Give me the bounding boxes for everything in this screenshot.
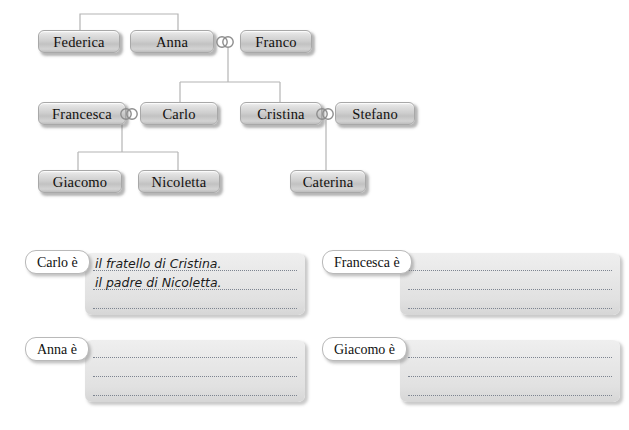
answer-line (408, 357, 612, 358)
handwritten-answers: il fratello di Cristina. il padre di Nic… (95, 254, 222, 311)
answer-text: il padre di Nicoletta. (95, 273, 222, 292)
person-label: Franco (255, 34, 296, 50)
person-label: Cristina (257, 106, 305, 122)
answer-line (408, 289, 612, 290)
answer-line (408, 376, 612, 377)
answer-line (93, 376, 297, 377)
answer-line (408, 270, 612, 271)
answer-panel[interactable] (400, 253, 620, 315)
person-label: Francesca (52, 106, 112, 122)
person-node-carlo[interactable]: Carlo (140, 102, 218, 125)
answer-line (93, 357, 297, 358)
answer-ruled-lines (93, 340, 297, 402)
person-node-francesca[interactable]: Francesca (38, 102, 126, 125)
family-tree: Federica Anna Franco Francesca Carlo Cri… (0, 0, 629, 230)
marriage-rings-icon (214, 35, 236, 49)
answer-panel[interactable] (85, 340, 305, 402)
person-node-anna[interactable]: Anna (130, 30, 214, 53)
answer-line (408, 395, 612, 396)
person-label: Stefano (352, 106, 398, 122)
answer-ruled-lines (408, 340, 612, 402)
exercise-label-giacomo: Giacomo è (322, 337, 407, 361)
person-label: Caterina (303, 174, 354, 190)
person-node-franco[interactable]: Franco (240, 30, 312, 53)
person-node-caterina[interactable]: Caterina (290, 170, 366, 193)
person-node-nicoletta[interactable]: Nicoletta (138, 170, 220, 193)
person-label: Giacomo (53, 174, 108, 190)
exercise-label-carlo: Carlo è (25, 250, 90, 274)
answer-line (408, 308, 612, 309)
answer-panel[interactable] (400, 340, 620, 402)
person-label: Nicoletta (152, 174, 207, 190)
person-node-stefano[interactable]: Stefano (335, 102, 415, 125)
answer-ruled-lines (408, 253, 612, 315)
person-label: Federica (53, 34, 105, 50)
answer-text (95, 292, 222, 311)
person-label: Carlo (162, 106, 195, 122)
person-node-giacomo[interactable]: Giacomo (38, 170, 122, 193)
exercise-label-francesca: Francesca è (322, 250, 412, 274)
answer-text: il fratello di Cristina. (95, 254, 222, 273)
answer-line (93, 395, 297, 396)
person-node-federica[interactable]: Federica (38, 30, 120, 53)
person-label: Anna (156, 34, 188, 50)
person-node-cristina[interactable]: Cristina (240, 102, 322, 125)
connector-federica-anna (80, 14, 178, 30)
exercise-label-anna: Anna è (25, 337, 89, 361)
